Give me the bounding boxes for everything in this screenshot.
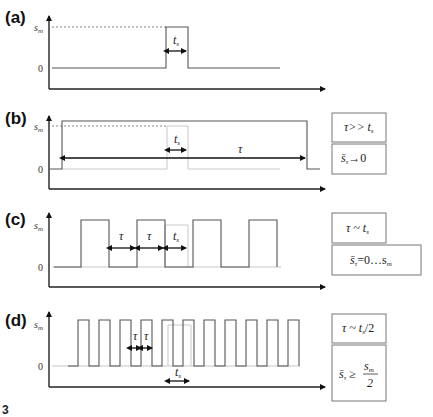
svg-text:s̄τ=0…sm: s̄τ=0…sm [350, 253, 392, 268]
reference-pulse [165, 225, 188, 267]
fraction-denominator: 2 [367, 376, 373, 390]
panel-a-label: (a) [5, 8, 26, 27]
fast-square-wave-signal [68, 320, 299, 366]
tau-label-2: τ [144, 329, 149, 343]
y-max-label: sm [34, 22, 43, 35]
long-window-signal [50, 121, 320, 169]
y-max-label: sm [34, 121, 43, 134]
panel-d-label: (d) [5, 311, 27, 330]
tau-label-2: τ [147, 229, 152, 243]
y-max-label: sm [34, 220, 43, 233]
figure-canvas: (a) sm 0 ts (b) sm 0 τ ts τ>> ts [0, 0, 433, 417]
panel-c: (c) sm 0 τ τ ts τ ~ ts s̄τ=0…sm [5, 210, 421, 287]
svg-text:τ ~ ts/2: τ ~ ts/2 [342, 321, 374, 336]
y-zero-label: 0 [38, 361, 43, 372]
svg-text:τ ~ ts: τ ~ ts [346, 221, 369, 236]
condition-box-tau: τ ~ ts [332, 213, 386, 243]
square-wave-signal [54, 220, 277, 267]
ts-label: ts [175, 365, 181, 380]
condition-box-tau: τ>> ts [332, 113, 386, 142]
figure-number: 3 [2, 403, 9, 417]
tau-label-1: τ [133, 329, 138, 343]
panel-b: (b) sm 0 τ ts τ>> ts s̄τ→0 [5, 109, 386, 189]
panel-c-label: (c) [5, 210, 26, 229]
ts-label: ts [174, 132, 180, 147]
result-box-mean: s̄τ=0…sm [332, 245, 421, 275]
ts-label: ts [173, 229, 179, 244]
result-box-mean: s̄τ→0 [332, 144, 386, 174]
panel-d: (d) sm 0 τ τ ts τ ~ ts/2 s̄τ ≥ sm 2 [5, 311, 386, 401]
result-box-mean: s̄τ ≥ sm 2 [332, 345, 386, 401]
panel-b-label: (b) [5, 109, 27, 128]
ts-label: ts [173, 33, 179, 48]
condition-box-tau: τ ~ ts/2 [332, 314, 386, 343]
y-zero-label: 0 [38, 262, 43, 273]
tau-label-1: τ [119, 229, 124, 243]
y-zero-label: 0 [38, 164, 43, 175]
y-max-label: sm [34, 319, 43, 332]
panel-a: (a) sm 0 ts [5, 8, 325, 89]
svg-text:τ>> ts: τ>> ts [344, 120, 374, 135]
tau-label: τ [238, 142, 243, 156]
reference-pulse [62, 126, 280, 169]
reference-pulse [168, 325, 191, 366]
single-pulse-signal [52, 27, 280, 68]
y-zero-label: 0 [38, 63, 43, 74]
svg-text:s̄τ ≥: s̄τ ≥ [339, 367, 356, 382]
svg-text:s̄τ→0: s̄τ→0 [341, 151, 366, 166]
